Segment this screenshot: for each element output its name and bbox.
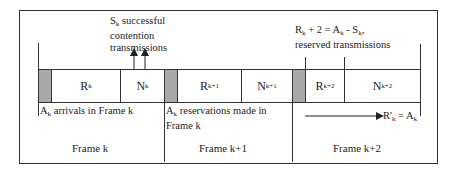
ak-symbol: A	[40, 105, 48, 116]
rprime-annotation: R'k = Ak	[383, 110, 417, 125]
rprime-symbol: R'	[383, 110, 392, 121]
rk2-comma: ,	[362, 24, 365, 35]
rk2-annotation: Rk + 2 = Ak - Sk, reserved transmissions	[295, 24, 390, 51]
ak-symbol: A	[166, 105, 174, 116]
sk-annotation: Sk successful contention transmissions	[110, 15, 167, 54]
frame-k1-label: Frame k+1	[199, 142, 247, 154]
rk2-line2: reserved transmissions	[295, 39, 390, 51]
ak-reservations-annotation: Ak reservations made in Frame k	[166, 105, 267, 132]
sk-line1: successful	[119, 15, 165, 26]
ak-reservations-text: reservations made in	[177, 105, 267, 116]
sk-line3: transmissions	[110, 42, 167, 54]
frame-k2-label: Frame k+2	[333, 142, 381, 154]
rprime-eq: = A	[395, 110, 413, 121]
ak-reservations-line2: Frame k	[166, 120, 267, 132]
ak-arrivals-annotation: Ak arrivals in Frame k	[40, 105, 133, 120]
sk-line2: contention	[110, 30, 167, 42]
rk2-minus: - S	[344, 24, 359, 35]
rk2-symbol: R	[295, 24, 302, 35]
ak-arrivals-text: arrivals in Frame k	[51, 105, 133, 116]
frame-k-label: Frame k	[72, 142, 108, 154]
rk2-eq: + 2 = A	[306, 24, 341, 35]
rprime-subscript2: k	[414, 115, 418, 123]
